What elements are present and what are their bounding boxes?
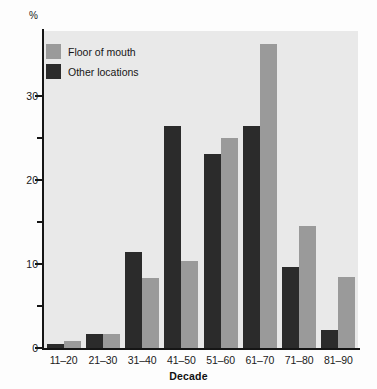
legend-swatch-icon-other-locations [46,64,61,79]
legend-item-other-locations: Other locations [46,64,139,79]
x-axis-title: Decade [0,370,377,382]
bar [299,226,316,348]
bar [338,277,355,348]
bar [125,252,142,348]
bar [103,334,120,348]
y-tick-label: 10 [8,258,38,270]
legend-swatch-icon-floor-of-mouth [46,44,61,59]
legend-label-floor-of-mouth: Floor of mouth [68,46,136,58]
bar [164,126,181,348]
bar [260,44,277,348]
bar [181,261,198,348]
y-tick-label: 30 [8,90,38,102]
x-axis-line [42,348,360,350]
bar-group [280,31,319,348]
y-axis-line [42,29,44,350]
x-tick-label: 81–90 [312,354,364,366]
y-tick-minor [37,137,43,139]
bar [282,267,299,348]
bar [64,341,81,348]
bar-group [201,31,240,348]
y-axis-unit-label: % [29,10,38,21]
legend-item-floor-of-mouth: Floor of mouth [46,44,139,59]
bar [204,154,221,348]
bar [142,278,159,348]
legend-label-other-locations: Other locations [68,66,139,78]
bar-chart: % 0102030 11–2021–3031–4041–5051–6061–70… [0,0,377,389]
y-tick-label: 20 [8,174,38,186]
bar [86,334,103,348]
legend: Floor of mouth Other locations [46,44,139,84]
bar [243,126,260,348]
y-tick-minor [37,221,43,223]
y-tick-label: 0 [8,342,38,354]
bar [321,330,338,348]
y-tick-minor [37,305,43,307]
bar [221,138,238,348]
bar-group [240,31,279,348]
bar-group [162,31,201,348]
bar-group [319,31,358,348]
